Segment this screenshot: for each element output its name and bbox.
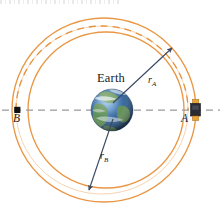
earth-globe — [91, 89, 133, 132]
orbital-transfer-diagram: Earth A B rA rB — [0, 0, 222, 218]
radius-b-label: rB — [100, 150, 108, 164]
point-a-satellite — [191, 99, 201, 120]
earth-label: Earth — [97, 71, 125, 86]
diagram-canvas — [0, 0, 222, 218]
point-b-label: B — [13, 112, 20, 124]
radius-a-label: rA — [148, 74, 156, 88]
radius-a-subscript: A — [152, 80, 156, 88]
point-a-label: A — [181, 112, 188, 124]
radius-b-subscript: B — [104, 156, 108, 164]
